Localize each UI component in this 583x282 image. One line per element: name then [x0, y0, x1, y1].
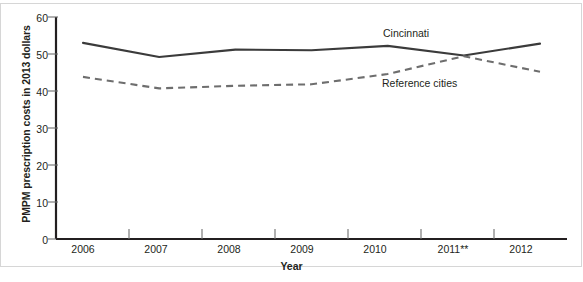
x-tick-label-2009: 2009 [281, 243, 323, 255]
series-label-cincinnati: Cincinnati [383, 27, 429, 39]
chart-figure: PMPM prescription costs in 2013 dollars … [0, 0, 583, 282]
x-tick-label-2006: 2006 [62, 243, 104, 255]
x-tick-label-2008: 2008 [208, 243, 250, 255]
x-tick-marks [129, 229, 494, 239]
x-tick-label-2010: 2010 [354, 243, 396, 255]
series-label-reference-cities: Reference cities [382, 77, 457, 89]
x-tick-label-2011: 2011** [424, 243, 482, 255]
x-tick-label-2012: 2012 [500, 243, 542, 255]
x-axis-title: Year [0, 260, 583, 272]
x-tick-label-2007: 2007 [135, 243, 177, 255]
series-line-reference-cities [83, 56, 540, 88]
plot-area [0, 0, 583, 282]
series-line-cincinnati [83, 43, 540, 57]
